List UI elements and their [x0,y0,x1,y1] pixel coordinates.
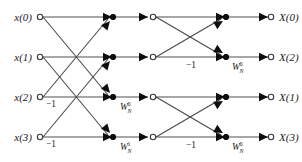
stage2-sum-node-2 [223,94,228,99]
stage1-neg-label-row2: −1 [46,99,56,109]
stage2-arrowheads [213,13,225,141]
stage1-sum-node-2 [110,94,115,99]
stage1-neg-label-row3: −1 [46,139,56,149]
stage1-cross-edges [43,17,108,137]
stage2-twiddle-row3: W N 0 [232,141,245,155]
input-node-3 [37,134,42,139]
stage2-neg-label-row1: −1 [186,60,196,70]
stage1-negative-labels: −1 −1 [46,99,56,149]
output-node-3 [268,134,273,139]
output-label-X1: X(1) [278,91,299,104]
input-nodes [37,14,42,139]
edge-in3-to-s1n1 [43,59,108,137]
stage2-node-1 [150,54,155,59]
stage1-twiddle-row3-sub: N [127,148,133,154]
input-node-2 [37,94,42,99]
output-nodes [268,14,273,139]
stage2-node-3 [150,134,155,139]
stage2-straight-edges [156,17,225,137]
stage2-node-0 [150,14,155,19]
stage2-node-2 [150,94,155,99]
stage2-twiddle-row1-sup: 0 [240,61,243,67]
fft-butterfly-diagram: x(0) x(1) x(2) x(3) X(0) X(2) X(1) X(3) … [0,0,302,162]
stage2-cross-edges [156,17,221,137]
fft-flow-graph-canvas: x(0) x(1) x(2) x(3) X(0) X(2) X(1) X(3) … [0,0,302,162]
stage1-twiddle-row3: W N 1 [120,141,133,155]
input-node-0 [37,14,42,19]
stage1-twiddle-row2: W N 0 [120,101,133,115]
input-label-x2: x(2) [13,91,32,104]
edge-in1-to-s1n3 [43,57,108,135]
output-node-0 [268,14,273,19]
input-label-x0: x(0) [13,11,32,24]
stage1-sum-node-0 [110,14,115,19]
arrowhead-out0 [259,13,268,21]
stage2-twiddle-row3-sup: 0 [240,141,243,147]
stage2-sum-node-0 [223,14,228,19]
stage1-arrowheads [101,13,113,141]
output-label-X3: X(3) [278,131,299,144]
output-node-1 [268,54,273,59]
edge-s2n3-to-out2 [156,99,221,137]
edge-in0-to-s1n2 [43,17,108,95]
output-edges [226,13,268,141]
stage2-sum-node-3 [223,134,228,139]
arrowhead-s2n1-in [139,53,148,61]
output-label-X2: X(2) [278,51,299,64]
stage2-sum-node-1 [223,54,228,59]
arrowhead-s2n0-in [139,13,148,21]
arrowhead-s2n3-in [139,133,148,141]
arrowhead-out2 [259,93,268,101]
stage1-straight-edges [43,17,112,137]
edge-in2-to-s1n0 [43,19,108,97]
input-labels: x(0) x(1) x(2) x(3) [13,11,32,144]
stage2-twiddle-row1-sub: N [239,68,245,74]
arrowhead-s2n2-in [139,93,148,101]
stage1-sum-node-3 [110,134,115,139]
interstage-edges [113,13,148,141]
stage1-twiddle-row2-sup: 0 [128,101,131,107]
stage2-twiddle-row1: W N 0 [232,61,245,75]
input-label-x1: x(1) [13,51,32,64]
stage2-twiddle-row3-sub: N [239,148,245,154]
edge-s2n0-to-out1 [156,17,221,55]
input-node-1 [37,54,42,59]
output-node-2 [268,94,273,99]
output-labels: X(0) X(2) X(1) X(3) [278,11,299,144]
stage2-neg-label-row3: −1 [186,140,196,150]
stage1-sum-node-1 [110,54,115,59]
stage1-twiddle-row2-sub: N [127,108,133,114]
stage2-input-nodes [150,14,155,139]
arrowhead-out1 [259,53,268,61]
edge-s2n2-to-out3 [156,97,221,135]
arrowhead-out3 [259,133,268,141]
stage2-sum-nodes [223,14,228,139]
edge-s2n1-to-out0 [156,19,221,57]
output-label-X0: X(0) [278,11,299,24]
stage1-sum-nodes [110,14,115,139]
input-label-x3: x(3) [13,131,32,144]
stage1-twiddle-row3-sup: 1 [128,141,131,147]
